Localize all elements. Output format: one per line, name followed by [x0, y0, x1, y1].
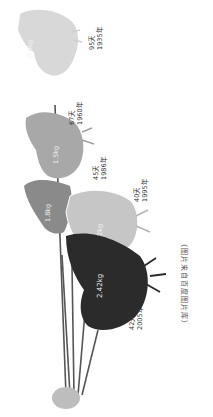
date-label-1986: 45天1986年	[92, 156, 108, 180]
weight-label-1960: 1.5kg	[52, 146, 60, 164]
chick-silhouette	[52, 387, 80, 409]
year-1986: 1986年	[100, 156, 108, 180]
weight-label-2005: 2.42kg	[96, 274, 104, 298]
days-1986: 45天	[92, 156, 100, 180]
days-1935: 95天	[88, 26, 96, 50]
chicken-1960-feet	[82, 128, 94, 144]
year-1960: 1960年	[76, 101, 84, 125]
year-1935: 1935年	[96, 26, 104, 50]
date-label-2005: 42天2005年	[128, 306, 144, 330]
year-2005: 2005年	[136, 306, 144, 330]
image-source-caption: （图片来自百度图片库）	[180, 240, 190, 328]
weight-label-1935: 0.9kg	[26, 40, 34, 58]
date-label-1935: 95天1935年	[88, 26, 104, 50]
days-1995: 40天	[133, 178, 141, 202]
date-label-1960: 67天1960年	[68, 101, 84, 125]
weight-label-1995: 2kg	[96, 224, 104, 236]
date-label-1995: 40天1995年	[133, 178, 149, 202]
days-1960: 67天	[68, 101, 76, 125]
weight-label-1986: 1.8kg	[44, 204, 52, 222]
chicken-growth-diagram	[0, 0, 213, 417]
year-1995: 1995年	[141, 178, 149, 202]
days-2005: 42天	[128, 306, 136, 330]
